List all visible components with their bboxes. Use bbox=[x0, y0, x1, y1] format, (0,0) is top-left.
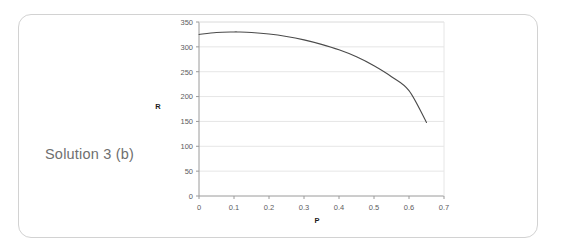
x-tick-label: 0.6 bbox=[404, 203, 414, 212]
x-tick-label: 0.2 bbox=[264, 203, 274, 212]
chart-axes bbox=[199, 22, 444, 196]
chart-container: 00.10.20.30.40.50.60.7 05010015020025030… bbox=[150, 14, 460, 232]
x-tick-label: 0.7 bbox=[439, 203, 449, 212]
x-tick-label: 0.3 bbox=[299, 203, 309, 212]
x-tick-label: 0 bbox=[197, 203, 201, 212]
x-axis-tick-labels: 00.10.20.30.40.50.60.7 bbox=[197, 203, 449, 212]
chart-series-group bbox=[199, 32, 427, 123]
y-tick-label: 50 bbox=[185, 167, 193, 176]
x-tick-label: 0.1 bbox=[229, 203, 239, 212]
y-tick-label: 350 bbox=[180, 18, 193, 27]
line-chart: 00.10.20.30.40.50.60.7 05010015020025030… bbox=[150, 14, 460, 232]
figure-caption: Solution 3 (b) bbox=[45, 146, 134, 162]
y-tick-label: 250 bbox=[180, 68, 193, 77]
y-tick-label: 0 bbox=[189, 192, 193, 201]
x-tick-label: 0.4 bbox=[334, 203, 344, 212]
y-tick-label: 300 bbox=[180, 43, 193, 52]
y-tick-label: 150 bbox=[180, 117, 193, 126]
x-axis-title: P bbox=[314, 216, 319, 225]
y-tick-label: 100 bbox=[180, 142, 193, 151]
y-tick-label: 200 bbox=[180, 92, 193, 101]
y-axis-title: R bbox=[155, 102, 161, 111]
x-tick-label: 0.5 bbox=[369, 203, 379, 212]
figure-canvas: Solution 3 (b) 00.10.20.30.40.50.60.7 05… bbox=[0, 0, 562, 252]
series-line bbox=[199, 32, 427, 123]
y-axis-tick-labels: 050100150200250300350 bbox=[180, 18, 193, 201]
